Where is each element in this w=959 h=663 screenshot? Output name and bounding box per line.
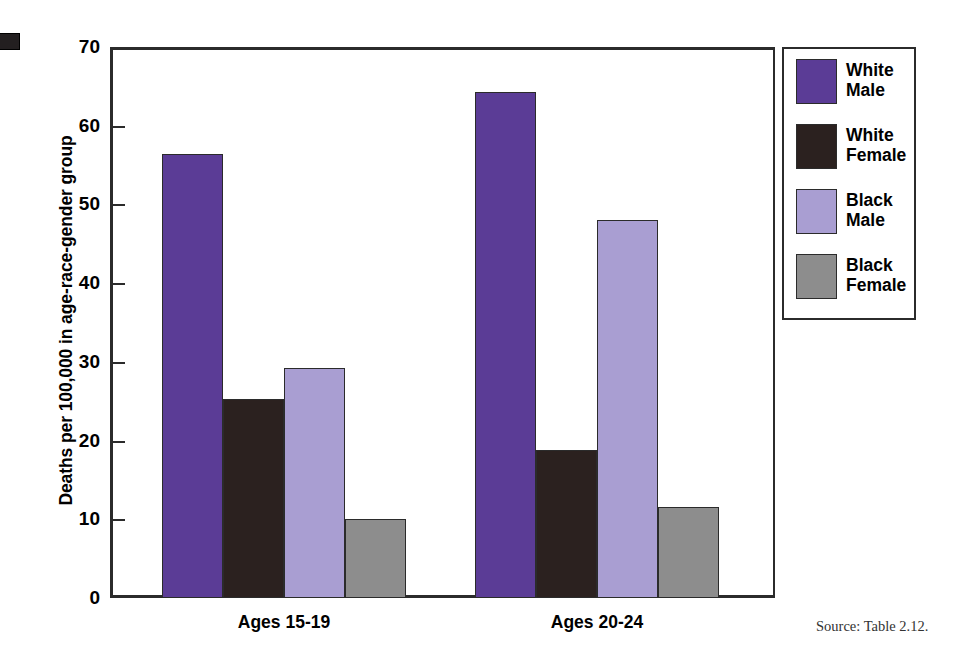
y-axis-label-60: 60 xyxy=(44,116,100,135)
legend-label-line1-black-female: Black xyxy=(846,255,906,275)
legend-item-white-male: WhiteMale xyxy=(796,59,894,104)
page-corner-mark xyxy=(0,33,20,50)
x-axis-label-group-1: Ages 15-19 xyxy=(194,612,374,633)
legend-label-line2-white-male: Male xyxy=(846,80,894,100)
y-axis-label-20: 20 xyxy=(44,431,100,450)
legend-swatch-black-male xyxy=(796,189,837,234)
figure-chart: Deaths per 100,000 in age-race-gender gr… xyxy=(0,0,959,663)
y-axis-label-0: 0 xyxy=(44,588,100,607)
legend-label-white-female: WhiteFemale xyxy=(846,124,906,165)
legend-label-white-male: WhiteMale xyxy=(846,59,894,100)
y-axis-label-30: 30 xyxy=(44,352,100,371)
legend-swatch-white-female xyxy=(796,124,837,169)
y-axis-label-10: 10 xyxy=(44,509,100,528)
bar-white-female-2 xyxy=(536,450,597,598)
bar-black-female-1 xyxy=(345,519,406,598)
legend-item-black-female: BlackFemale xyxy=(796,254,906,299)
legend-label-line1-black-male: Black xyxy=(846,190,893,210)
legend-label-line1-white-male: White xyxy=(846,60,894,80)
legend-label-black-male: BlackMale xyxy=(846,189,893,230)
bar-white-male-2 xyxy=(475,92,536,598)
legend-label-line2-black-male: Male xyxy=(846,210,893,230)
legend-item-black-male: BlackMale xyxy=(796,189,893,234)
bar-black-female-2 xyxy=(658,507,719,598)
legend-label-line1-white-female: White xyxy=(846,125,906,145)
x-axis-label-group-2: Ages 20-24 xyxy=(507,612,687,633)
source-note: Source: Table 2.12. xyxy=(816,618,928,635)
y-axis-label-70: 70 xyxy=(44,37,100,56)
legend-swatch-black-female xyxy=(796,254,837,299)
bar-black-male-2 xyxy=(597,220,658,598)
bar-black-male-1 xyxy=(284,368,345,598)
y-axis-label-50: 50 xyxy=(44,194,100,213)
y-axis-label-40: 40 xyxy=(44,273,100,292)
bar-white-male-1 xyxy=(162,154,223,598)
legend-item-white-female: WhiteFemale xyxy=(796,124,906,169)
bars-layer xyxy=(110,47,775,598)
bar-white-female-1 xyxy=(223,399,284,598)
legend-label-black-female: BlackFemale xyxy=(846,254,906,295)
legend-box: WhiteMaleWhiteFemaleBlackMaleBlackFemale xyxy=(782,47,916,320)
legend-label-line2-black-female: Female xyxy=(846,275,906,295)
legend-label-line2-white-female: Female xyxy=(846,145,906,165)
legend-swatch-white-male xyxy=(796,59,837,104)
